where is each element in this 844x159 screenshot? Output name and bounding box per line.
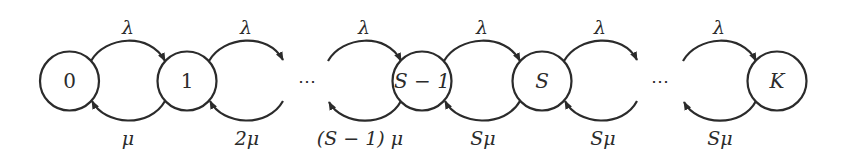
rate-lambda-0: λ bbox=[121, 16, 134, 38]
ellipsis-1: ⋯ bbox=[298, 70, 316, 91]
markov-chain-diagram: 0 1 S − 1 S K ⋯ ⋯ λ λ λ λ λ λ μ 2μ (S − … bbox=[0, 0, 844, 159]
transition-S-to-next bbox=[564, 41, 637, 61]
rate-mu-S-c: Sμ bbox=[707, 127, 732, 149]
rate-mu-S-a: Sμ bbox=[470, 127, 495, 149]
transition-S-minus-1-to-S bbox=[444, 41, 520, 61]
state-S-minus-1: S − 1 bbox=[393, 52, 452, 111]
state-K: K bbox=[748, 52, 807, 111]
transition-S-minus-1-to-prev bbox=[329, 101, 401, 121]
state-K-label: K bbox=[769, 69, 786, 93]
transition-1-to-2 bbox=[209, 41, 283, 61]
transition-K-to-prev bbox=[684, 101, 756, 121]
rate-mu-2: 2μ bbox=[234, 127, 259, 149]
rate-lambda-3: λ bbox=[475, 16, 488, 38]
state-1: 1 bbox=[158, 52, 217, 111]
rate-lambda-5: λ bbox=[712, 16, 725, 38]
ellipsis-2: ⋯ bbox=[651, 70, 669, 91]
transition-to-K bbox=[683, 41, 756, 61]
state-S-minus-1-label: S − 1 bbox=[394, 69, 450, 93]
state-1-label: 1 bbox=[181, 69, 194, 93]
rate-lambda-2: λ bbox=[357, 16, 370, 38]
transition-next-to-S bbox=[565, 101, 637, 121]
rate-mu-1: μ bbox=[122, 127, 134, 149]
state-S: S bbox=[513, 52, 572, 111]
rate-mu-S-minus-1: (S − 1) μ bbox=[317, 127, 403, 149]
transition-2-to-1 bbox=[210, 101, 283, 121]
transition-S-to-S-minus-1 bbox=[445, 101, 520, 121]
transition-to-S-minus-1 bbox=[328, 41, 401, 61]
rate-lambda-4: λ bbox=[593, 16, 606, 38]
transition-0-to-1 bbox=[91, 41, 165, 61]
rate-lambda-1: λ bbox=[239, 16, 252, 38]
state-0: 0 bbox=[40, 52, 99, 111]
rate-mu-S-b: Sμ bbox=[590, 127, 615, 149]
state-0-label: 0 bbox=[63, 69, 76, 93]
state-S-label: S bbox=[535, 69, 549, 93]
transition-1-to-0 bbox=[92, 101, 165, 121]
